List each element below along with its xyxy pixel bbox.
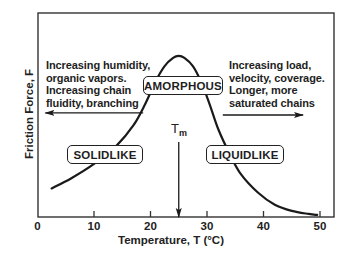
- tm-label: Tm: [171, 121, 187, 138]
- x-tick-label: 20: [144, 220, 157, 232]
- left-annotation-line: Increasing humidity,: [46, 59, 150, 72]
- tm-letter: T: [171, 121, 179, 136]
- right-annotation-line: Increasing load,: [229, 59, 325, 72]
- right-annotation: Increasing load, velocity, coverage. Lon…: [229, 59, 325, 109]
- y-axis-label: Friction Force, F: [23, 59, 35, 169]
- right-annotation-line: Longer, more: [229, 84, 325, 97]
- x-axis-label: Temperature, T (°C): [118, 234, 224, 246]
- left-annotation-line: Increasing chain: [46, 84, 150, 97]
- x-tick-label: 50: [314, 220, 327, 232]
- tm-subscript: m: [179, 128, 187, 138]
- amorphous-label: AMORPHOUS: [143, 76, 223, 95]
- right-annotation-line: saturated chains: [229, 97, 325, 110]
- left-annotation-line: organic vapors.: [46, 72, 150, 85]
- left-annotation-line: fluidity, branching: [46, 97, 150, 110]
- x-tick-label: 0: [34, 220, 40, 232]
- x-tick-label: 40: [257, 220, 270, 232]
- left-annotation: Increasing humidity, organic vapors. Inc…: [46, 59, 150, 109]
- liquidlike-label: LIQUIDLIKE: [206, 145, 284, 164]
- x-tick-label: 10: [88, 220, 101, 232]
- x-ticks: [94, 211, 320, 217]
- solidlike-label: SOLIDLIKE: [67, 145, 143, 164]
- x-tick-label: 30: [201, 220, 214, 232]
- right-annotation-line: velocity, coverage.: [229, 72, 325, 85]
